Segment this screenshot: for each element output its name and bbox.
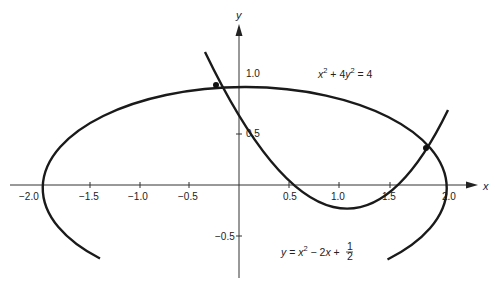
diagram-canvas: x −2.0 −1.5 −1.0 −0.5 0.5 1.0 1.5 2.0 y … (0, 0, 499, 289)
y-tick-label: −0.5 (215, 231, 235, 242)
x-tick-label: −0.5 (178, 191, 198, 202)
svg-text:2: 2 (347, 250, 353, 262)
ellipse-curve (43, 87, 447, 259)
y-axis-label: y (235, 9, 243, 21)
x-axis-arrow-icon (466, 182, 478, 189)
x-tick-label: −1.5 (79, 191, 99, 202)
y-tick-label: 1.0 (246, 68, 260, 79)
x-tick-label: −2.0 (19, 191, 39, 202)
y-axis-arrow-icon (236, 24, 243, 36)
intersection-point (213, 82, 219, 88)
x-tick-label: −1.0 (128, 191, 148, 202)
ellipse-equation-label: x2 + 4y2 = 4 (317, 66, 373, 80)
x-axis: x −2.0 −1.5 −1.0 −0.5 0.5 1.0 1.5 2.0 (10, 180, 489, 202)
x-tick-label: 1.0 (331, 191, 345, 202)
fraction-one-half: 1 2 (346, 240, 353, 262)
x-axis-label: x (482, 180, 489, 192)
y-axis: y 1.0 0.5 −0.5 (215, 9, 260, 278)
x-tick-label: 0.5 (283, 191, 297, 202)
parabola-equation-label: y = x2 − 2x + (280, 244, 340, 258)
intersection-point (423, 145, 429, 151)
